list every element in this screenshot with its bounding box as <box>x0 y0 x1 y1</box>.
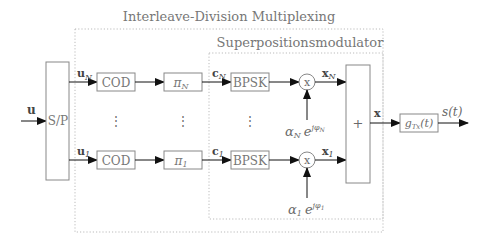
ellipsis-cod: ⋮ <box>110 114 122 128</box>
branch-1: u1 COD π1 c1 BPSK x α1ejφ1 x1 <box>69 145 346 218</box>
idm-group-frame <box>75 29 383 232</box>
svg-text:xN: xN <box>322 67 337 81</box>
bpsk-label-n: BPSK <box>233 76 268 90</box>
sp-block-label: S/P <box>48 114 68 128</box>
output-label: s(t) <box>442 105 463 119</box>
branch-n: uN COD πN cN BPSK x αNejφN xN <box>69 67 346 140</box>
cod-label-1: COD <box>102 154 131 168</box>
input-label: u <box>27 103 36 117</box>
svg-text:u1: u1 <box>77 145 90 159</box>
svg-text:c1: c1 <box>212 145 224 159</box>
superposition-group-title: Superpositionsmodulator <box>217 35 385 50</box>
ellipsis-interleaver: ⋮ <box>177 114 189 128</box>
svg-text:x: x <box>304 76 311 89</box>
svg-text:x1: x1 <box>322 145 334 159</box>
svg-text:x: x <box>304 154 311 167</box>
bpsk-label-1: BPSK <box>233 154 268 168</box>
sum-output-label: x <box>374 107 381 120</box>
gain-label-1: α1ejφ1 <box>288 201 325 218</box>
idm-group-title: Interleave-Division Multiplexing <box>123 9 336 24</box>
idm-block-diagram: Interleave-Division Multiplexing Superpo… <box>0 0 483 246</box>
gain-label-n: αNejφN <box>285 123 326 140</box>
svg-text:cN: cN <box>212 67 227 81</box>
sum-block-label: + <box>353 116 364 131</box>
svg-text:uN: uN <box>77 67 93 82</box>
cod-label-n: COD <box>102 76 131 90</box>
ellipsis-bpsk: ⋮ <box>244 114 256 128</box>
